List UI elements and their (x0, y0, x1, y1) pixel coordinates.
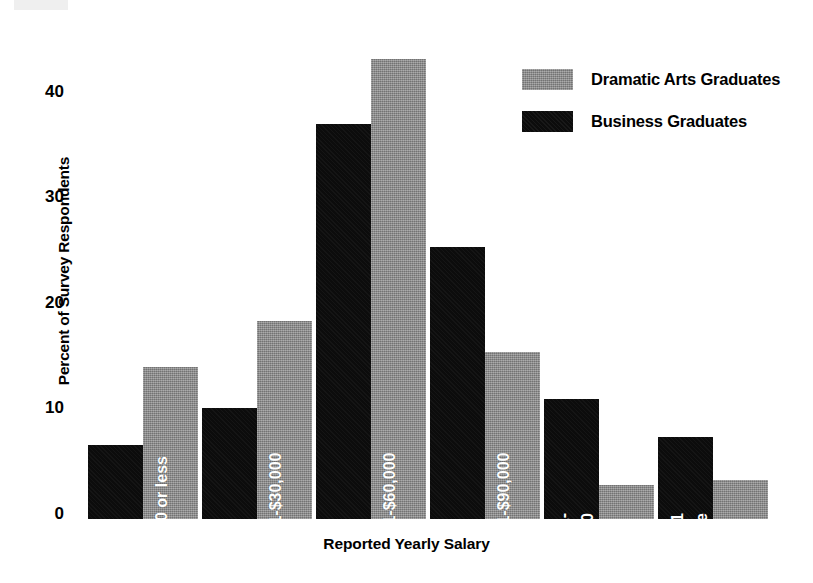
bar-group-1: $15,001-$30,000 (199, 40, 311, 519)
bar-category-label-0: $15,000 or less (153, 456, 171, 519)
legend-item-dramatic-arts[interactable]: Dramatic Arts Graduates (522, 64, 802, 94)
bar-group-0: $15,000 or less (85, 40, 197, 519)
bar-category-label-1: $15,001-$30,000 (267, 453, 285, 520)
bar-category-label-4-line1: $90,001- (555, 513, 573, 519)
bar-business-1[interactable] (202, 408, 257, 519)
bar-category-label-3: $60,001-$90,000 (495, 453, 513, 520)
bar-business-5[interactable]: or more $120,001 (658, 437, 713, 519)
bar-business-4[interactable]: $120,000 $90,001- (544, 399, 599, 519)
y-tick-label-0: 0 (20, 505, 64, 522)
bar-chart: Percent of Survey Respondents 0 10 20 30… (0, 0, 813, 583)
bar-dramatic-arts-0[interactable]: $15,000 or less (143, 367, 198, 519)
bar-dramatic-arts-5[interactable] (713, 480, 768, 519)
bar-dramatic-arts-3[interactable]: $60,001-$90,000 (485, 352, 540, 519)
legend-label-business: Business Graduates (591, 112, 747, 131)
bar-dramatic-arts-2[interactable]: $30,001-$60,000 (371, 59, 426, 519)
bar-dramatic-arts-1[interactable]: $15,001-$30,000 (257, 321, 312, 519)
legend-swatch-gray-icon (522, 69, 573, 90)
legend-label-dramatic-arts: Dramatic Arts Graduates (591, 70, 780, 89)
bar-business-3[interactable] (430, 247, 485, 519)
y-tick-label-40: 40 (20, 83, 64, 100)
x-axis-title: Reported Yearly Salary (0, 535, 813, 553)
bar-category-label-5-line1: $120,001 (669, 513, 687, 519)
legend-item-business[interactable]: Business Graduates (522, 106, 802, 136)
chart-legend: Dramatic Arts Graduates Business Graduat… (522, 64, 802, 148)
bar-category-label-2: $30,001-$60,000 (381, 453, 399, 520)
bar-dramatic-arts-4[interactable] (599, 485, 654, 519)
y-tick-label-10: 10 (20, 399, 64, 416)
y-tick-label-20: 20 (20, 294, 64, 311)
bar-business-2[interactable] (316, 124, 371, 519)
bar-business-0[interactable] (88, 445, 143, 519)
y-axis-ticks: 0 10 20 30 40 (18, 0, 64, 583)
bar-group-2: $30,001-$60,000 (313, 40, 425, 519)
y-tick-label-30: 30 (20, 188, 64, 205)
bar-category-label-5-line2: or more (693, 513, 711, 519)
bar-category-label-4-line2: $120,000 (579, 513, 597, 519)
legend-swatch-black-icon (522, 111, 573, 132)
